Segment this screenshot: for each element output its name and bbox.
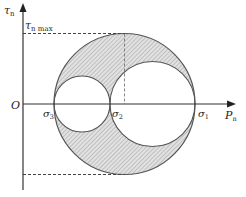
tau-max-label: τn max <box>25 19 53 33</box>
sigma3-label: σ3 <box>43 108 54 121</box>
sigma1-label: σ1 <box>198 108 209 121</box>
y-axis-label: τn <box>4 4 15 18</box>
origin-label: O <box>11 99 20 112</box>
x-axis-label: Pn <box>224 109 237 123</box>
y-axis-arrow-icon <box>20 3 27 12</box>
x-axis-arrow-icon <box>227 101 236 108</box>
mohr-circle-diagram: τn τn max O σ3 σ2 σ1 Pn <box>0 0 246 197</box>
